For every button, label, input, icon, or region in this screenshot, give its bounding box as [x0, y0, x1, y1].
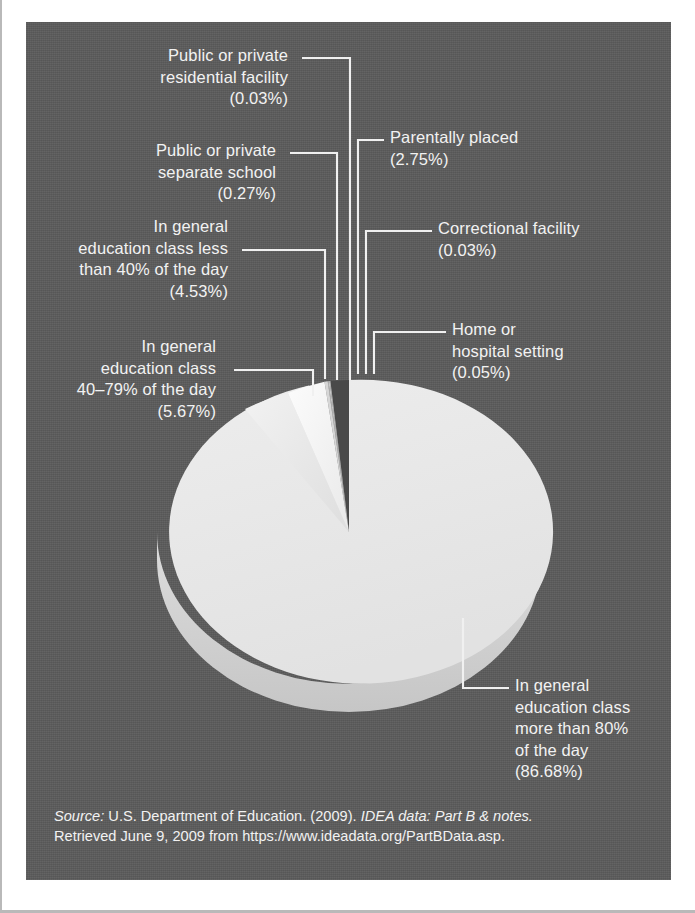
- leader-correctional: [366, 231, 432, 374]
- source-text-1: U.S. Department of Education. (2009).: [104, 808, 360, 824]
- label-more-than-80: In general education class more than 80%…: [515, 675, 671, 783]
- leader-less-than-40: [242, 250, 325, 379]
- label-correctional-facility: Correctional facility (0.03%): [438, 218, 668, 261]
- leader-parentally-placed: [358, 140, 384, 374]
- label-residential-facility: Public or private residential facility (…: [78, 45, 288, 110]
- slice-more-than-80: [169, 380, 553, 684]
- leader-separate-school: [290, 153, 337, 380]
- figure-frame: Public or private residential facility (…: [0, 0, 695, 913]
- label-less-than-40: In general education class less than 40%…: [26, 216, 228, 302]
- pie-top-face: [169, 380, 553, 684]
- source-label: Source:: [54, 808, 104, 824]
- source-text-2: Retrieved June 9, 2009 from https://www.…: [54, 828, 505, 844]
- label-home-hospital: Home or hospital setting (0.05%): [452, 319, 652, 384]
- source-title: IDEA data: Part B & notes.: [361, 808, 533, 824]
- label-separate-school: Public or private separate school (0.27%…: [76, 140, 276, 205]
- source-citation: Source: U.S. Department of Education. (2…: [54, 806, 644, 846]
- label-parentally-placed: Parentally placed (2.75%): [390, 127, 640, 170]
- leader-home-hospital: [374, 332, 446, 374]
- chart-panel: Public or private residential facility (…: [26, 22, 671, 880]
- label-40-to-79: In general education class 40–79% of the…: [26, 336, 216, 422]
